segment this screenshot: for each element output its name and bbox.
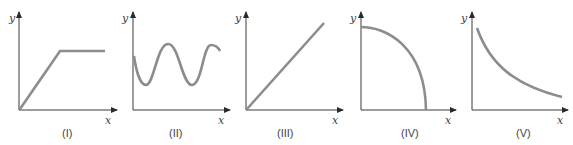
panel-v: y x (V): [460, 12, 568, 139]
panel-iv: y x (IV): [349, 12, 456, 139]
panel-i: y x (I): [8, 12, 117, 139]
panel-label: (V): [516, 127, 531, 139]
arc-curve: [361, 27, 426, 110]
panel-label: (I): [62, 127, 72, 139]
graphs-figure: y x (I) y x (II) y x (III) y x (IV) y x: [0, 0, 573, 145]
x-axis-label: x: [445, 114, 452, 127]
x-axis-label: x: [105, 114, 112, 127]
y-axis-label: y: [234, 12, 242, 25]
y-axis-label: y: [460, 12, 468, 25]
plateau-curve: [20, 51, 105, 109]
panel-label: (III): [277, 127, 294, 139]
y-axis-label: y: [121, 12, 129, 25]
y-axis-label: y: [8, 12, 16, 25]
x-axis-label: x: [332, 114, 339, 127]
panel-ii: y x (II): [121, 12, 230, 139]
x-axis-label: x: [557, 114, 564, 127]
decay-curve: [477, 28, 562, 97]
y-axis-label: y: [349, 12, 357, 25]
panel-label: (IV): [401, 127, 419, 139]
panel-iii: y x (III): [234, 12, 343, 139]
linear-curve: [247, 23, 324, 109]
sine-curve: [134, 44, 220, 85]
panel-label: (II): [169, 127, 182, 139]
x-axis-label: x: [218, 114, 225, 127]
